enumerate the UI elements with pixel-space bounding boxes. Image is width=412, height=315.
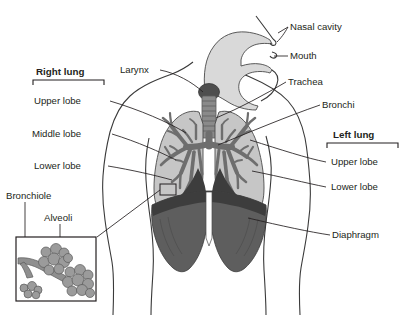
alveoli-inset-group — [16, 237, 96, 301]
label-alveoli: Alveoli — [44, 212, 72, 223]
label-left-lower-lobe: Lower lobe — [331, 181, 378, 192]
diaphragm-central-septum — [206, 192, 212, 246]
label-right-lower-lobe: Lower lobe — [34, 160, 81, 171]
label-diaphragm: Diaphragm — [332, 229, 379, 240]
label-mouth: Mouth — [290, 50, 317, 61]
respiratory-system-diagram: Nasal cavity Mouth Trachea Bronchi Laryn… — [0, 0, 412, 315]
diagram-canvas: Nasal cavity Mouth Trachea Bronchi Laryn… — [0, 0, 412, 315]
heading-right-lung: Right lung — [36, 66, 84, 77]
label-nasal-cavity: Nasal cavity — [290, 21, 342, 32]
label-bronchiole: Bronchiole — [6, 190, 51, 201]
label-bronchi: Bronchi — [322, 99, 355, 110]
label-trachea: Trachea — [288, 76, 324, 87]
label-larynx: Larynx — [120, 64, 149, 75]
label-right-upper-lobe: Upper lobe — [34, 95, 81, 106]
heading-left-lung: Left lung — [333, 129, 374, 140]
label-right-middle-lobe: Middle lobe — [32, 128, 81, 139]
label-left-upper-lobe: Upper lobe — [331, 156, 378, 167]
